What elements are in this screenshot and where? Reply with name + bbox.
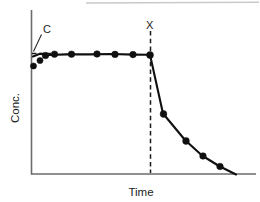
data-point-marker bbox=[37, 57, 43, 63]
data-point-marker bbox=[217, 163, 224, 170]
chart-background bbox=[0, 0, 260, 202]
data-point-marker bbox=[200, 153, 207, 160]
plateau-level-label: C bbox=[43, 23, 51, 35]
data-point-marker-stop-point bbox=[147, 52, 154, 59]
concentration-time-chart: C X Conc. Time bbox=[0, 0, 260, 202]
data-point-marker bbox=[51, 51, 58, 58]
data-point-marker bbox=[160, 111, 167, 118]
data-point-marker bbox=[42, 52, 49, 59]
data-point-marker bbox=[130, 51, 137, 58]
stop-point-label: X bbox=[146, 19, 154, 31]
data-point-marker bbox=[94, 51, 101, 58]
data-point-marker bbox=[183, 138, 190, 145]
data-point-marker bbox=[112, 51, 119, 58]
x-axis-title: Time bbox=[128, 186, 153, 198]
top-border-rule bbox=[86, 2, 259, 3]
y-axis-title: Conc. bbox=[9, 93, 21, 123]
data-point-marker bbox=[68, 51, 75, 58]
data-point-marker bbox=[30, 63, 36, 69]
